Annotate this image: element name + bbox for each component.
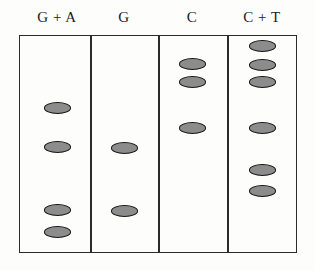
gel-band <box>179 58 206 70</box>
gel-band <box>249 59 276 71</box>
gel-band <box>44 141 71 153</box>
gel-band <box>44 204 71 216</box>
lane-header-g: G <box>118 8 129 26</box>
lane-header-c: C <box>187 8 198 26</box>
lane-divider-2 <box>158 35 160 253</box>
gel-band <box>111 142 138 154</box>
gel-band <box>111 205 138 217</box>
gel-band <box>249 185 276 197</box>
gel-band <box>249 40 276 52</box>
gel-band <box>44 102 71 114</box>
gel-band <box>249 164 276 176</box>
gel-band <box>249 122 276 134</box>
gel-band <box>179 76 206 88</box>
lane-divider-3 <box>227 35 229 253</box>
gel-band <box>179 122 206 134</box>
sequencing-gel-figure: G + A G C C + T <box>0 0 315 271</box>
lane-header-c-plus-t: C + T <box>243 8 280 26</box>
lane-header-g-plus-a: G + A <box>37 8 76 26</box>
gel-band <box>44 226 71 238</box>
lane-divider-1 <box>90 35 92 253</box>
gel-band <box>249 76 276 88</box>
